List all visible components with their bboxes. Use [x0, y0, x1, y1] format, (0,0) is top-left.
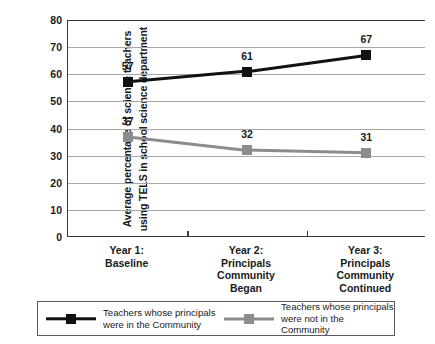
data-point-marker[interactable] [123, 132, 133, 142]
legend-entry-not-in-community[interactable]: Teachers whose principals were not in th… [224, 302, 394, 335]
line-segment [128, 70, 248, 84]
data-point-label: 57 [122, 60, 134, 72]
data-point-label: 61 [241, 50, 253, 62]
legend-label-in-community: Teachers whose principals were in the Co… [103, 307, 216, 330]
data-point-marker[interactable] [361, 148, 371, 158]
series-layer: 576167373231 [68, 20, 426, 237]
legend-swatch-gray-icon [224, 313, 274, 325]
data-point-marker[interactable] [242, 67, 252, 77]
data-point-marker[interactable] [361, 50, 371, 60]
line-segment [127, 135, 247, 152]
data-point-label: 67 [360, 33, 372, 45]
data-point-label: 31 [360, 131, 372, 143]
y-axis-title: Average percentage of science teachers u… [2, 18, 48, 240]
line-segment [247, 149, 366, 155]
legend-label-not-in-community: Teachers whose principals were not in th… [281, 301, 394, 336]
x-category-label-1: Year 1: Baseline [67, 244, 186, 269]
x-category-label-2: Year 2: Principals Community Began [186, 244, 305, 294]
data-point-marker[interactable] [123, 77, 133, 87]
legend-swatch-dark-icon [46, 313, 96, 325]
chart-legend: Teachers whose principals were in the Co… [37, 301, 395, 336]
line-segment [247, 54, 367, 74]
data-point-label: 32 [241, 128, 253, 140]
legend-entry-in-community[interactable]: Teachers whose principals were in the Co… [46, 302, 216, 335]
plot-area: 576167373231 [67, 20, 425, 237]
data-point-label: 37 [122, 115, 134, 127]
x-category-label-3: Year 3: Principals Community Continued [306, 244, 425, 294]
data-point-marker[interactable] [242, 145, 252, 155]
